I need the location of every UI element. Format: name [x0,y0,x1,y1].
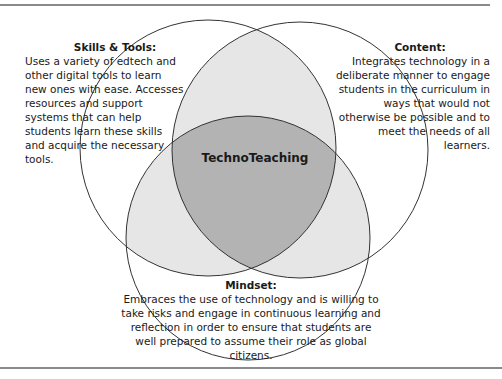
bottom-rule [0,367,502,369]
mindset-title: Mindset: [120,278,382,292]
skills-label: Skills & Tools: Uses a variety of edtech… [25,40,185,166]
skills-text: Uses a variety of edtech and other digit… [25,55,183,165]
center-label: TechnoTeaching [200,151,310,165]
skills-title: Skills & Tools: [25,40,185,54]
mindset-label: Mindset: Embraces the use of technology … [120,278,382,362]
content-label: Content: Integrates technology in a deli… [330,40,490,152]
content-text: Integrates technology in a deliberate ma… [336,55,490,151]
mindset-text: Embraces the use of technology and is wi… [121,293,380,361]
content-title: Content: [330,40,490,54]
